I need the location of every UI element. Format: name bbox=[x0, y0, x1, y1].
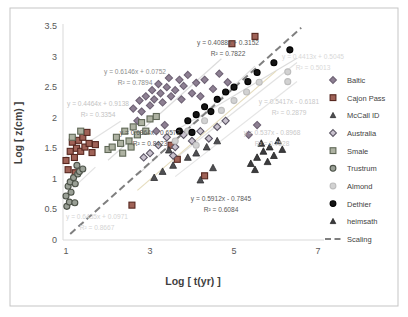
y-tick-label: 3.5 bbox=[44, 21, 57, 31]
y-tick-label: 3 bbox=[52, 52, 57, 62]
data-point bbox=[189, 129, 195, 135]
data-point bbox=[118, 140, 124, 146]
x-tick-label: 3 bbox=[147, 246, 152, 256]
annotation-equation: y = 0.6435x + 0.0971 bbox=[66, 213, 128, 221]
data-point bbox=[126, 138, 132, 144]
legend-label: Dethier bbox=[347, 200, 372, 209]
data-point bbox=[69, 134, 75, 140]
legend-label: Trustrum bbox=[347, 164, 377, 173]
data-point bbox=[256, 79, 262, 85]
annotation-equation: y = 0.4464x + 0.9138 bbox=[67, 100, 129, 108]
data-point bbox=[78, 128, 84, 134]
y-tick-label: 0 bbox=[52, 235, 57, 245]
data-point bbox=[84, 129, 90, 135]
data-point bbox=[139, 120, 145, 126]
x-tick-label: 7 bbox=[315, 246, 320, 256]
x-axis-title: Log [ t(yr) ] bbox=[165, 275, 220, 287]
circle-icon bbox=[330, 165, 336, 171]
annotation-r-squared: R² = 0.6084 bbox=[204, 206, 239, 213]
annotation-r-squared: R² = 0.8423 bbox=[133, 140, 168, 147]
data-point bbox=[287, 47, 293, 53]
data-point bbox=[80, 166, 86, 172]
data-point bbox=[147, 116, 153, 122]
y-axis-title: Log [ z(cm) ] bbox=[12, 102, 24, 164]
data-point bbox=[172, 138, 178, 144]
annotation-equation: y = 0.537x - 0.8968 bbox=[244, 129, 301, 137]
annotation-equation: y = 0.5417x - 0.6181 bbox=[259, 98, 320, 106]
square-icon bbox=[330, 95, 336, 101]
data-point bbox=[67, 148, 73, 154]
chart-figure: 00.511.522.533.51357Log [ t(yr) ]Log [ z… bbox=[0, 0, 408, 317]
data-point bbox=[202, 173, 208, 179]
y-tick-label: 0.5 bbox=[44, 204, 57, 214]
annotation-r-squared: R² = 0.8667 bbox=[80, 224, 115, 231]
annotation-equation: y = 0.6146x + 0.0752 bbox=[104, 68, 166, 76]
data-point bbox=[89, 150, 95, 156]
circle-icon bbox=[330, 201, 336, 207]
data-point bbox=[92, 142, 98, 148]
legend-label: Smale bbox=[347, 147, 368, 156]
data-point bbox=[129, 202, 135, 208]
data-point bbox=[109, 144, 115, 150]
circle-icon bbox=[330, 183, 336, 189]
data-point bbox=[72, 181, 78, 187]
data-point bbox=[202, 104, 208, 110]
data-point bbox=[245, 79, 251, 85]
data-point bbox=[231, 98, 237, 104]
data-point bbox=[185, 118, 191, 124]
data-point bbox=[74, 162, 80, 168]
data-point bbox=[202, 118, 208, 124]
annotation-equation: y = 0.6364x - 0.6572 bbox=[120, 129, 181, 137]
data-point bbox=[120, 150, 126, 156]
data-point bbox=[86, 140, 92, 146]
legend-label: McCall ID bbox=[347, 111, 380, 120]
data-point bbox=[71, 154, 77, 160]
y-tick-label: 2 bbox=[52, 113, 57, 123]
data-point bbox=[65, 167, 71, 173]
scatter-plot: 00.511.522.533.51357Log [ t(yr) ]Log [ z… bbox=[0, 0, 408, 317]
annotation-r-squared: R² = 0.5013 bbox=[296, 64, 331, 71]
x-tick-label: 1 bbox=[63, 246, 68, 256]
data-point bbox=[208, 109, 214, 115]
annotation-equation: y = 0.4413x + 0.5045 bbox=[282, 53, 344, 61]
y-tick-label: 1.5 bbox=[44, 143, 57, 153]
legend-label: Cajon Pass bbox=[347, 94, 386, 103]
data-point bbox=[285, 79, 291, 85]
data-point bbox=[193, 112, 199, 118]
data-point bbox=[223, 89, 229, 95]
data-point bbox=[68, 189, 74, 195]
annotation-r-squared: R² = 0.7528 bbox=[255, 140, 290, 147]
annotation-r-squared: R² = 0.3354 bbox=[81, 111, 116, 118]
legend-label: heimsath bbox=[347, 217, 377, 226]
y-tick-label: 1 bbox=[52, 174, 57, 184]
y-tick-label: 2.5 bbox=[44, 82, 57, 92]
annotation-r-squared: R² = 0.7822 bbox=[211, 50, 246, 57]
legend-label: Baltic bbox=[347, 76, 366, 85]
data-point bbox=[72, 200, 78, 206]
legend-label: Scaling bbox=[347, 235, 372, 244]
data-point bbox=[63, 158, 69, 164]
annotation-r-squared: R² = 0.2879 bbox=[272, 109, 307, 116]
annotation-r-squared: R² = 0.7894 bbox=[118, 79, 153, 86]
data-point bbox=[193, 142, 199, 148]
data-point bbox=[285, 69, 291, 75]
legend-label: Australia bbox=[347, 129, 377, 138]
square-icon bbox=[330, 148, 336, 154]
data-point bbox=[244, 89, 250, 95]
legend-label: Almond bbox=[347, 182, 372, 191]
annotation-equation: y = 0.4088x + 0.3152 bbox=[197, 39, 259, 47]
data-point bbox=[153, 113, 159, 119]
x-tick-label: 5 bbox=[231, 246, 236, 256]
data-point bbox=[218, 107, 224, 113]
annotation-equation: y = 0.5912x - 0.7845 bbox=[191, 195, 252, 203]
data-point bbox=[231, 84, 237, 90]
data-point bbox=[254, 69, 260, 75]
data-point bbox=[214, 96, 220, 102]
data-point bbox=[271, 60, 277, 66]
data-point bbox=[113, 134, 119, 140]
